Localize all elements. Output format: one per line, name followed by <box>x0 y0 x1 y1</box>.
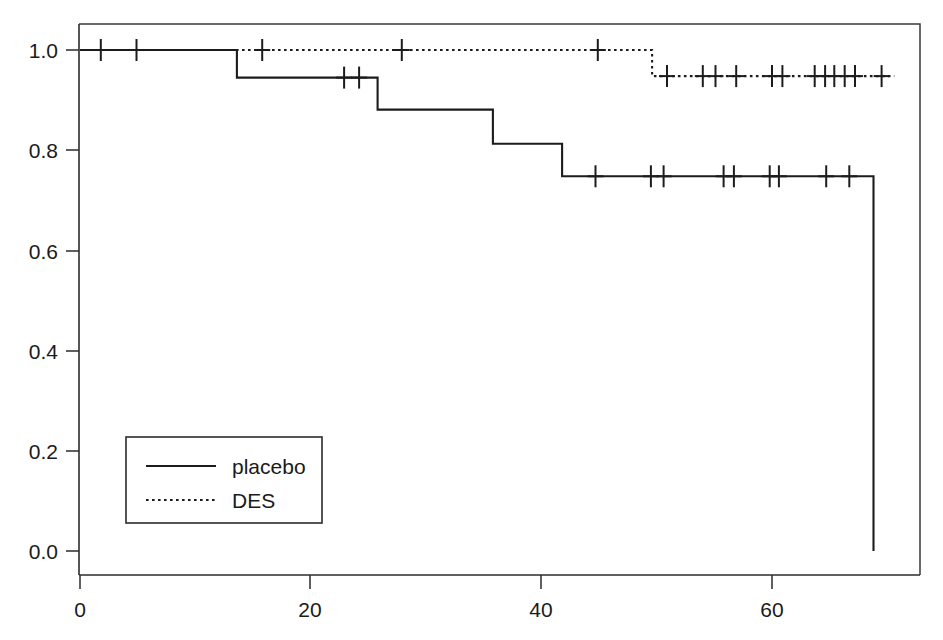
x-tick-label-40: 40 <box>529 598 552 621</box>
legend-label-placebo: placebo <box>232 455 306 478</box>
y-tick-label-1.0: 1.0 <box>29 39 58 62</box>
survival-chart-figure: 1.0 0.8 0.6 0.4 0.2 0.0 0 20 40 60 <box>0 0 943 640</box>
y-axis-ticks: 1.0 0.8 0.6 0.4 0.2 0.0 <box>29 39 79 563</box>
legend-box <box>126 437 322 523</box>
y-tick-label-0.4: 0.4 <box>29 340 59 363</box>
x-tick-label-60: 60 <box>760 598 783 621</box>
y-tick-label-0.6: 0.6 <box>29 240 58 263</box>
x-axis-ticks: 0 20 40 60 <box>74 575 784 621</box>
y-tick-label-0.0: 0.0 <box>29 540 58 563</box>
series-des <box>80 39 894 87</box>
kaplan-meier-plot: 1.0 0.8 0.6 0.4 0.2 0.0 0 20 40 60 <box>0 0 943 640</box>
y-tick-label-0.2: 0.2 <box>29 440 58 463</box>
x-tick-label-0: 0 <box>74 598 86 621</box>
y-tick-label-0.8: 0.8 <box>29 139 58 162</box>
x-tick-label-20: 20 <box>298 598 321 621</box>
legend: placebo DES <box>126 437 322 523</box>
legend-label-des: DES <box>232 489 275 512</box>
